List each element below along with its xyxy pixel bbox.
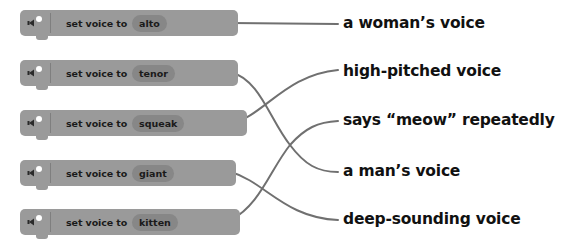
voice-block-giant[interactable]: set voice to giant: [20, 160, 236, 186]
answer-woman-voice: a woman’s voice: [343, 14, 485, 32]
voice-block-kitten[interactable]: set voice to kitten: [20, 209, 240, 235]
block-label: set voice to: [66, 118, 127, 129]
voice-block-alto[interactable]: set voice to alto: [20, 10, 238, 36]
connector-giant-deep: [231, 172, 338, 220]
block-divider: [50, 212, 51, 232]
voice-value-dropdown[interactable]: squeak: [132, 115, 184, 132]
connector-alto-woman: [231, 23, 338, 24]
voice-value-dropdown[interactable]: kitten: [132, 214, 178, 231]
speaker-icon: [20, 209, 50, 235]
connector-tenor-man: [231, 72, 338, 172]
answer-says-meow: says “meow” repeatedly: [343, 111, 555, 129]
block-label: set voice to: [66, 168, 127, 179]
block-divider: [50, 63, 51, 83]
answer-man-voice: a man’s voice: [343, 162, 460, 180]
answer-high-pitched-voice: high-pitched voice: [343, 62, 501, 80]
speaker-icon: [20, 110, 50, 136]
voice-value-dropdown[interactable]: tenor: [132, 65, 175, 82]
connector-squeak-high: [231, 70, 338, 124]
speaker-icon: [20, 60, 50, 86]
block-divider: [50, 113, 51, 133]
block-label: set voice to: [66, 18, 127, 29]
block-label: set voice to: [66, 217, 127, 228]
voice-block-squeak[interactable]: set voice to squeak: [20, 110, 247, 136]
voice-block-tenor[interactable]: set voice to tenor: [20, 60, 238, 86]
block-divider: [50, 13, 51, 33]
speaker-icon: [20, 10, 50, 36]
speaker-icon: [20, 160, 50, 186]
voice-value-dropdown[interactable]: alto: [132, 15, 167, 32]
answer-deep-sounding-voice: deep-sounding voice: [343, 210, 521, 228]
block-label: set voice to: [66, 68, 127, 79]
block-divider: [50, 163, 51, 183]
voice-value-dropdown[interactable]: giant: [132, 165, 174, 182]
